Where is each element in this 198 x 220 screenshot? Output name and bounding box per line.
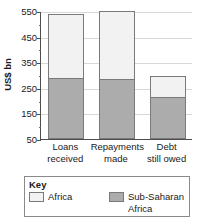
y-axis-major-tick [37,38,41,39]
bar-chart-figure: US$ bn 55045035025015050 LoansreceivedRe… [0,0,198,175]
y-axis-title-text: US$ bn [2,58,13,91]
bar-group [99,11,135,139]
y-axis-major-tick [37,89,41,90]
y-axis-tick-label: 350 [21,58,37,68]
legend: Key AfricaSub-SaharanAfrica [24,176,190,217]
bar-segment-africa [150,76,186,96]
legend-label: Sub-SaharanAfrica [128,191,184,214]
y-axis-minor-tick [39,127,42,128]
legend-label: Africa [48,191,72,203]
x-axis-tick-label: Loansreceived [40,141,91,164]
y-axis-title: US$ bn [0,38,14,110]
bar-segment-sub-saharan-africa [99,79,135,139]
y-axis-tick-label: 150 [21,109,37,119]
bar-segment-africa [99,11,135,79]
plot-area [40,12,192,140]
y-axis-tick-label: 550 [21,7,37,17]
legend-swatch [29,192,44,202]
legend-title: Key [29,179,46,190]
y-axis-minor-tick [39,50,42,51]
legend-swatch [109,192,124,202]
x-axis-tick-label: Debtstill owed [141,141,192,164]
y-axis-major-tick [37,63,41,64]
bar-segment-sub-saharan-africa [48,78,84,139]
y-axis-major-tick [37,12,41,13]
bar-segment-sub-saharan-africa [150,97,186,139]
bar-segment-africa [48,14,84,78]
y-axis-minor-tick [39,102,42,103]
y-axis-tick-label: 450 [21,33,37,43]
y-axis-tick-label: 50 [26,135,37,145]
x-axis-tick-labels: LoansreceivedRepaymentsmadeDebtstill owe… [40,141,192,171]
bar-group [48,11,84,139]
y-axis-tick-label: 250 [21,84,37,94]
x-axis-tick-label: Repaymentsmade [91,141,142,164]
y-axis-minor-tick [39,25,42,26]
y-axis-major-tick [37,114,41,115]
bar-group [150,11,186,139]
y-axis-minor-tick [39,76,42,77]
y-axis-tick-labels: 55045035025015050 [14,0,38,175]
